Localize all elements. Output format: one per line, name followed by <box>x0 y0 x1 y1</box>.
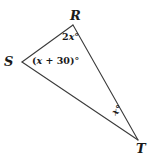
geometry-figure: R S T 2x° (x + 30)° x° <box>0 0 156 165</box>
vertex-label-r: R <box>70 9 81 22</box>
edge-side-ST <box>22 62 138 140</box>
angle-measure-label-s: (x + 30)° <box>32 56 79 66</box>
vertex-label-t: T <box>136 142 146 155</box>
angle-r-prefix: 2 <box>62 31 69 42</box>
angle-r-suffix: ° <box>74 31 79 42</box>
angle-measure-label-r: 2x° <box>62 32 79 42</box>
angle-s-suffix: + 30)° <box>42 55 79 66</box>
vertex-label-s: S <box>4 55 13 68</box>
triangle-shape <box>0 0 156 165</box>
edge-side-RT <box>73 25 138 140</box>
